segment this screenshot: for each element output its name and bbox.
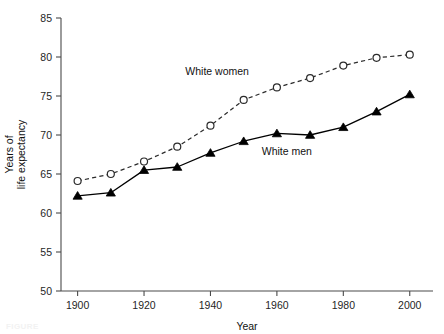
- y-tick-label: 65: [40, 168, 52, 180]
- y-tick-label: 85: [40, 12, 52, 24]
- y-tick-label: 80: [40, 51, 52, 63]
- y-tick-label: 50: [40, 285, 52, 297]
- data-point-marker: [307, 75, 314, 82]
- data-point-marker: [141, 158, 148, 165]
- y-tick-label: 75: [40, 90, 52, 102]
- data-point-marker: [273, 84, 280, 91]
- x-tick-label: 1960: [265, 299, 289, 311]
- life-expectancy-chart-figure: 5055606570758085 19001920194019601980200…: [0, 0, 444, 334]
- y-axis-ticks: 5055606570758085: [40, 12, 61, 297]
- figure-caption-fragment: FIGURE: [6, 322, 39, 331]
- x-axis-title: Year: [236, 320, 258, 332]
- data-point-marker: [373, 54, 380, 61]
- x-tick-label: 1920: [132, 299, 156, 311]
- chart-canvas: 5055606570758085 19001920194019601980200…: [0, 0, 444, 334]
- x-tick-label: 2000: [398, 299, 422, 311]
- data-point-marker: [106, 188, 115, 196]
- x-tick-label: 1980: [332, 299, 356, 311]
- data-point-marker: [340, 62, 347, 69]
- series-white-men: [73, 90, 414, 199]
- data-point-marker: [405, 90, 414, 98]
- y-axis-title-line-1: Years of: [3, 135, 15, 173]
- data-point-marker: [173, 163, 182, 171]
- x-axis-ticks: 190019201940196019802000: [66, 291, 422, 311]
- series-annotations: White womenWhite men: [185, 65, 312, 157]
- y-axis-title-line-2: life expectancy: [15, 119, 27, 189]
- data-point-marker: [240, 96, 247, 103]
- data-point-marker: [372, 107, 381, 115]
- series-annotation-label: White women: [185, 65, 249, 77]
- data-point-marker: [107, 171, 114, 178]
- series-annotation-label: White men: [262, 145, 312, 157]
- y-tick-label: 55: [40, 246, 52, 258]
- data-point-marker: [174, 143, 181, 150]
- data-point-marker: [406, 51, 413, 58]
- x-tick-label: 1900: [66, 299, 90, 311]
- series-line-white-men: [78, 94, 410, 195]
- y-tick-label: 70: [40, 129, 52, 141]
- data-point-marker: [74, 178, 81, 185]
- y-tick-label: 60: [40, 207, 52, 219]
- data-point-marker: [339, 123, 348, 131]
- x-tick-label: 1940: [199, 299, 223, 311]
- data-point-marker: [207, 122, 214, 129]
